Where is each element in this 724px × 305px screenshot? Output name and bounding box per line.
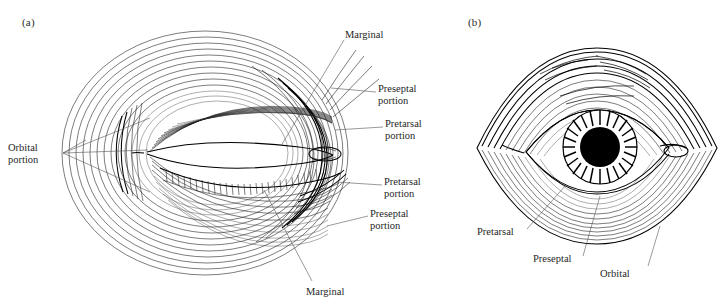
label-orbital-b: Orbital [600, 268, 630, 280]
label-marginal-top: Marginal [345, 29, 383, 41]
lateral-canthus-b [660, 144, 688, 157]
label-preseptal-b: Preseptal [533, 253, 572, 265]
tail-fibers-top-right-a [322, 50, 379, 117]
pupil-b [580, 127, 620, 167]
figure-orbicularis-oculi: (a) (b) [0, 0, 724, 305]
lower-lid-fibers-a [150, 157, 332, 246]
orbital-portion-loops-a [62, 31, 348, 275]
panel-label-a: (a) [22, 16, 35, 28]
label-orbital-portion-left: Orbital portion [8, 142, 38, 165]
label-pretarsal-b: Pretarsal [477, 226, 514, 238]
figure-artwork [0, 0, 724, 305]
label-preseptal-portion-bottom: Preseptal portion [370, 208, 409, 231]
iris-b [563, 110, 637, 184]
label-pretarsal-portion-top: Pretarsal portion [385, 118, 422, 141]
label-pretarsal-portion-bottom: Pretarsal portion [384, 176, 421, 199]
label-marginal-bottom: Marginal [306, 286, 344, 298]
label-preseptal-portion-top: Preseptal portion [378, 83, 417, 106]
marginal-portion-hatching-a [160, 168, 340, 198]
medial-canthus-b [502, 145, 524, 153]
panel-a-artwork [62, 31, 383, 281]
panel-label-b: (b) [468, 16, 481, 28]
